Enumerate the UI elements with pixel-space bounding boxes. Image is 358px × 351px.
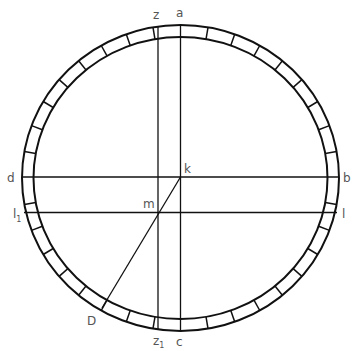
label-c: c [176,335,183,349]
line-k-D [102,177,181,308]
label-m: m [143,197,155,211]
tick-mark [126,34,130,45]
tick-mark [24,151,35,153]
tick-mark [153,27,155,39]
tick-mark [206,317,208,329]
circle-construction-diagram: z a k d b m l1 l D z1 c [0,0,358,351]
tick-mark [43,102,53,108]
label-z: z [153,8,159,22]
tick-mark [308,249,318,255]
tick-mark [293,269,302,277]
label-D: D [87,314,96,328]
tick-mark [79,286,86,295]
tick-mark [254,300,260,310]
label-d: d [7,171,15,185]
label-z1: z1 [153,334,164,350]
tick-mark [79,61,86,70]
tick-mark [101,45,107,55]
point-labels: z a k d b m l1 l D z1 c [7,6,351,350]
tick-mark [43,249,53,255]
tick-mark [325,202,336,204]
tick-mark [325,151,336,153]
label-b: b [343,171,351,185]
tick-mark [59,80,68,88]
label-l: l [342,207,345,221]
tick-mark [308,102,318,108]
label-l1: l1 [13,207,21,224]
tick-mark [254,45,260,55]
tick-mark [231,34,235,45]
tick-mark [59,269,68,277]
label-l1-subscript: 1 [16,215,21,224]
tick-mark [293,80,302,88]
tick-mark [319,226,330,230]
tick-mark [32,126,43,130]
label-k: k [184,162,191,176]
tick-mark [231,310,235,321]
tick-mark [126,310,130,321]
tick-mark [206,27,208,39]
label-a: a [176,6,183,20]
tick-mark [153,317,155,329]
tick-mark [24,202,35,204]
tick-mark [275,286,282,295]
tick-mark [275,61,282,70]
tick-mark [32,226,43,230]
label-z1-subscript: 1 [159,341,164,350]
tick-mark [319,126,330,130]
construction-lines [22,25,339,331]
